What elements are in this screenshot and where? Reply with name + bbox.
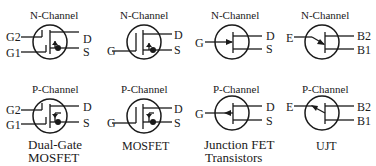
caption-jfet-line2: Transistors	[205, 151, 262, 164]
terminal-d-jfet-n: D	[266, 30, 275, 42]
dual-gate-mosfet-n-channel-symbol	[21, 25, 79, 59]
mosfet-n-channel-symbol	[112, 25, 172, 59]
terminal-b2-ujt-n: B2	[357, 30, 371, 42]
terminal-d-mosfet-n: D	[174, 29, 183, 41]
transistor-symbols-diagram: N-Channel N-Channel N-Channel N-Channel …	[0, 0, 376, 166]
caption-dual-gate-line2: MOSFET	[28, 151, 79, 164]
terminal-s-jfet-p: S	[266, 115, 273, 127]
jfet-p-channel-symbol	[205, 96, 262, 130]
terminal-g-jfet-p: G	[195, 108, 204, 120]
channel-label-ujt-n: N-Channel	[301, 10, 349, 21]
terminal-d-dual-n: D	[83, 33, 92, 45]
channel-label-dual-gate-n: N-Channel	[30, 10, 78, 21]
terminal-d-mosfet-p: D	[174, 103, 183, 115]
terminal-s-jfet-n: S	[266, 43, 273, 55]
terminal-b2-ujt-p: B2	[357, 101, 371, 113]
channel-label-jfet-p: P-Channel	[213, 84, 259, 95]
terminal-g1-p: G1	[6, 119, 21, 131]
channel-label-jfet-n: N-Channel	[211, 10, 259, 21]
ujt-p-channel-symbol	[294, 96, 354, 130]
channel-label-mosfet-p: P-Channel	[121, 84, 167, 95]
terminal-b1-ujt-n: B1	[357, 44, 371, 56]
mosfet-p-channel-symbol	[112, 99, 172, 133]
terminal-d-jfet-p: D	[266, 101, 275, 113]
terminal-s-dual-p: S	[83, 117, 90, 129]
jfet-n-channel-symbol	[205, 25, 262, 59]
dual-gate-mosfet-p-channel-symbol	[21, 99, 79, 133]
terminal-s-mosfet-n: S	[174, 44, 181, 56]
terminal-g-mosfet-p: G	[107, 117, 116, 129]
terminal-d-dual-p: D	[83, 101, 92, 113]
channel-label-dual-gate-p: P-Channel	[32, 84, 78, 95]
terminal-g-jfet-n: G	[195, 37, 204, 49]
terminal-e-ujt-p: E	[286, 101, 293, 113]
terminal-b1-ujt-p: B1	[357, 115, 371, 127]
caption-ujt: UJT	[316, 140, 337, 152]
caption-mosfet: MOSFET	[122, 140, 169, 152]
terminal-e-ujt-n: E	[286, 32, 293, 44]
terminal-g-mosfet-n: G	[107, 45, 116, 57]
terminal-s-mosfet-p: S	[174, 117, 181, 129]
terminal-s-dual-n: S	[83, 46, 90, 58]
terminal-g1-n: G1	[6, 47, 21, 59]
channel-label-ujt-p: P-Channel	[302, 84, 348, 95]
channel-label-mosfet-n: N-Channel	[120, 10, 168, 21]
terminal-g2-n: G2	[6, 31, 21, 43]
ujt-n-channel-symbol	[294, 25, 354, 59]
terminal-g2-p: G2	[6, 104, 21, 116]
